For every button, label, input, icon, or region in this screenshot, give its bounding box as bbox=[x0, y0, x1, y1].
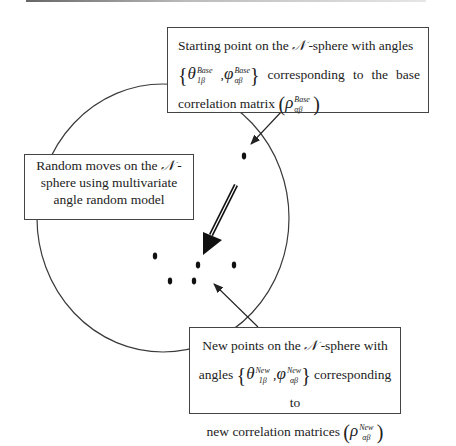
new-pointer-arrow bbox=[214, 284, 258, 327]
random-line-3: angle random model bbox=[29, 191, 189, 208]
new-line-2: angles {θNew1β ,φNewαβ} corresponding to bbox=[194, 360, 396, 417]
random-line-1: Random moves on the 𝒩 - bbox=[29, 157, 189, 174]
random-moves-box: Random moves on the 𝒩 - sphere using mul… bbox=[24, 154, 194, 220]
random-move-arrow bbox=[203, 185, 236, 255]
base-point bbox=[242, 153, 246, 160]
starting-point-box: Starting point on the 𝒩 -sphere with ang… bbox=[167, 27, 429, 113]
starting-line-2: {θBase1β ,φBaseαβ} corresponding to the … bbox=[178, 60, 420, 89]
random-line-2: sphere using multivariate bbox=[29, 174, 189, 191]
new-line-1: New points on the 𝒩 -sphere with bbox=[194, 331, 396, 360]
new-line-3: new correlation matrices (ρNewαβ ) bbox=[194, 417, 396, 446]
starting-line-1: Starting point on the 𝒩 -sphere with ang… bbox=[178, 31, 420, 60]
new-points bbox=[153, 253, 236, 285]
starting-line-3: correlation matrix (ρBaseαβ ) bbox=[178, 89, 420, 118]
new-points-box: New points on the 𝒩 -sphere with angles … bbox=[189, 327, 401, 414]
